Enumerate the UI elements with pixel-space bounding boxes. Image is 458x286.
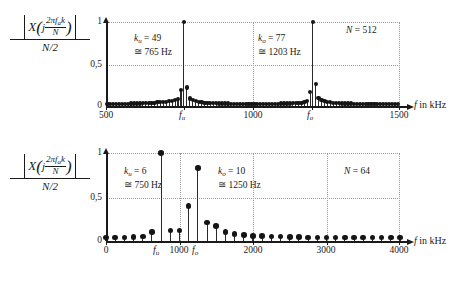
y-axis-label-bottom: X(j2πfakN) N/2 bbox=[10, 155, 90, 192]
data-point bbox=[213, 223, 219, 229]
data-point bbox=[287, 234, 293, 240]
data-point bbox=[232, 231, 238, 237]
y-tick-top-05: 0,5 bbox=[78, 59, 102, 69]
data-point bbox=[379, 235, 385, 241]
stem-line bbox=[183, 22, 184, 106]
x-axis-top bbox=[106, 106, 408, 108]
x-tick-bottom-4000: 4000 bbox=[381, 245, 417, 255]
marker-label-top-fu: fu bbox=[179, 109, 185, 122]
annotation-top-ko-line2: ≅ 1203 Hz bbox=[258, 47, 301, 57]
x-axis-title-bottom: f in kHz bbox=[414, 235, 446, 246]
annotation-bottom-ko-sub: o bbox=[222, 170, 226, 178]
annotation-bottom-ku-sub: u bbox=[128, 170, 132, 178]
y-tick-bottom-05: 0,5 bbox=[78, 192, 102, 202]
data-point bbox=[311, 20, 315, 24]
marker-label-top-fo: fo bbox=[307, 109, 313, 122]
x-tick-top-1500: 1500 bbox=[381, 110, 417, 120]
marker-label-bottom-fo-sub: o bbox=[195, 249, 199, 257]
annotation-bottom-ku-eq: = 6 bbox=[134, 166, 146, 176]
y-tick-bottom-1: 1 bbox=[82, 147, 102, 157]
data-point bbox=[333, 235, 339, 241]
data-point bbox=[259, 233, 265, 239]
x-axis-title-bottom-sym: f bbox=[414, 235, 417, 246]
data-point bbox=[351, 235, 357, 241]
gridline-top-x1500 bbox=[399, 22, 400, 108]
y-axis-top bbox=[106, 22, 108, 108]
x-tick-top-500: 500 bbox=[88, 110, 124, 120]
n-label-top: N = 512 bbox=[346, 25, 377, 35]
data-point bbox=[296, 234, 302, 240]
data-point bbox=[269, 234, 275, 240]
x-tick-bottom-2000: 2000 bbox=[235, 245, 271, 255]
data-point bbox=[186, 203, 192, 209]
x-tick-bottom-0: 0 bbox=[88, 245, 124, 255]
y-axis-arrow-bottom bbox=[103, 148, 109, 154]
stem-line bbox=[312, 22, 313, 106]
annotation-bottom-ko-eq: = 10 bbox=[228, 166, 245, 176]
x-axis-title-top: f in kHz bbox=[414, 99, 446, 110]
chart-panel-bottom: X(j2πfakN) N/2 1 0,5 0 0 1000 bbox=[0, 133, 458, 273]
stem-line bbox=[310, 92, 311, 106]
data-point bbox=[241, 232, 247, 238]
annotation-top-ku-line2: ≅ 765 Hz bbox=[134, 47, 172, 57]
data-point bbox=[223, 229, 229, 235]
annotation-top-ku-eq: = 49 bbox=[144, 33, 161, 43]
y-tick-bottom-0: 0 bbox=[82, 235, 102, 245]
annotation-bottom-ku: ku = 6 ≅ 750 Hz bbox=[124, 165, 162, 192]
data-point bbox=[278, 234, 284, 240]
data-point bbox=[388, 235, 394, 241]
x-axis-arrow-bottom bbox=[407, 239, 414, 245]
marker-label-top-fu-sub: u bbox=[182, 114, 186, 122]
annotation-top-ku-sub: u bbox=[138, 37, 142, 45]
marker-label-bottom-fo: fo bbox=[192, 244, 198, 257]
data-point bbox=[122, 235, 128, 241]
gridline-bottom-x3000 bbox=[327, 153, 328, 243]
data-point bbox=[131, 234, 137, 240]
n-label-top-eq: = 512 bbox=[355, 25, 377, 35]
data-point bbox=[370, 235, 376, 241]
x-axis-bottom bbox=[106, 241, 408, 243]
y-tick-top-1: 1 bbox=[82, 16, 102, 26]
stem-line bbox=[207, 223, 208, 241]
data-point bbox=[204, 220, 210, 226]
annotation-top-ko-eq: = 77 bbox=[268, 33, 285, 43]
data-point bbox=[397, 235, 403, 241]
stem-line bbox=[188, 206, 189, 241]
annotation-top-ko: ko = 77 ≅ 1203 Hz bbox=[258, 32, 301, 59]
data-point bbox=[195, 165, 201, 171]
x-axis-arrow-top bbox=[407, 104, 414, 110]
marker-label-bottom-fu-sub: u bbox=[156, 249, 160, 257]
data-point bbox=[158, 150, 164, 156]
x-axis-title-top-unit: in kHz bbox=[419, 99, 446, 110]
marker-label-bottom-fu: fu bbox=[153, 244, 159, 257]
data-point bbox=[185, 85, 189, 89]
data-point bbox=[314, 82, 318, 86]
x-tick-bottom-3000: 3000 bbox=[308, 245, 344, 255]
annotation-bottom-ku-line2: ≅ 750 Hz bbox=[124, 180, 162, 190]
figure-root: X(j2πfakN) N/2 1 0,5 0 500 1000 bbox=[0, 0, 458, 286]
data-point bbox=[177, 228, 183, 234]
stem-line bbox=[161, 153, 162, 241]
data-point bbox=[103, 235, 109, 241]
y-tick-top-0: 0 bbox=[82, 100, 102, 110]
x-tick-top-1000: 1000 bbox=[235, 110, 271, 120]
stem-line bbox=[197, 168, 198, 241]
annotation-top-ko-sub: o bbox=[262, 37, 266, 45]
x-axis-title-top-sym: f bbox=[414, 99, 417, 110]
data-point bbox=[149, 229, 155, 235]
data-point bbox=[360, 235, 366, 241]
data-point bbox=[140, 234, 146, 240]
chart-panel-top: X(j2πfakN) N/2 1 0,5 0 500 1000 bbox=[0, 0, 458, 133]
y-axis-label-top: X(j2πfakN) N/2 bbox=[10, 16, 90, 53]
data-point bbox=[112, 235, 118, 241]
data-point bbox=[315, 235, 321, 241]
gridline-top-x1000 bbox=[253, 22, 254, 108]
n-label-bottom-eq: = 64 bbox=[353, 166, 370, 176]
plot-area-top: 1 0,5 0 500 1000 1500 fu fo ku = 49 bbox=[106, 22, 400, 108]
data-point bbox=[324, 235, 330, 241]
data-point bbox=[250, 233, 256, 239]
n-label-top-sym: N bbox=[346, 25, 352, 35]
y-axis-arrow-top bbox=[103, 17, 109, 23]
data-point bbox=[305, 235, 311, 241]
gridline-bottom-x4000 bbox=[399, 153, 400, 243]
